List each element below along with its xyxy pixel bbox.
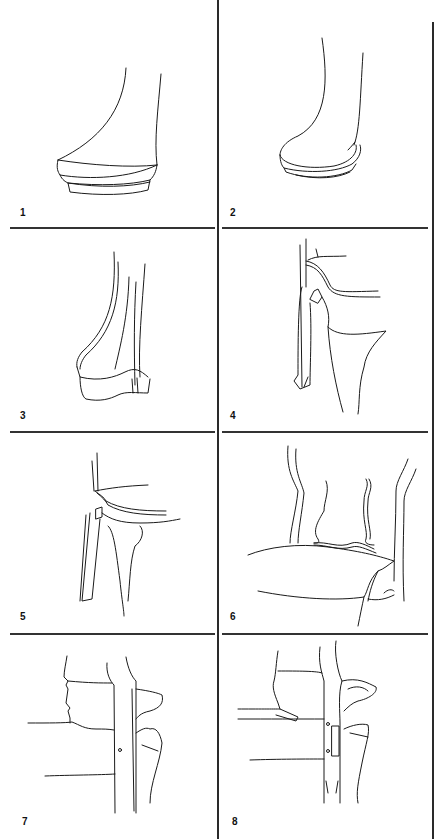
panel-8: 8 bbox=[218, 633, 433, 839]
panel-2: 2 bbox=[218, 0, 433, 227]
panel-label: 6 bbox=[230, 611, 236, 622]
panel-1: 1 bbox=[0, 0, 217, 227]
panel-label: 5 bbox=[20, 611, 26, 622]
foot-pad-stepped-drawing bbox=[0, 0, 217, 227]
chair-back-seat-drawing bbox=[218, 431, 433, 633]
panel-7: 7 bbox=[0, 633, 217, 839]
leg-rail-mortise-joint-drawing bbox=[218, 633, 433, 839]
panel-label: 7 bbox=[22, 816, 28, 827]
leg-rail-pin-joint-drawing bbox=[0, 633, 217, 839]
panel-label: 3 bbox=[20, 410, 26, 421]
panel-3: 3 bbox=[0, 227, 217, 431]
panel-6: 6 bbox=[218, 431, 433, 633]
panel-label: 1 bbox=[20, 207, 26, 218]
leg-rail-joint-side-drawing bbox=[0, 431, 217, 633]
foot-pad-rounded-drawing bbox=[218, 0, 433, 227]
panel-label: 4 bbox=[230, 410, 236, 421]
panel-label: 2 bbox=[230, 207, 236, 218]
panel-4: 4 bbox=[218, 227, 433, 431]
panel-5: 5 bbox=[0, 431, 217, 633]
foot-pad-shaped-drawing bbox=[0, 227, 217, 431]
leg-rail-joint-angled-drawing bbox=[218, 227, 433, 431]
panel-label: 8 bbox=[232, 816, 238, 827]
